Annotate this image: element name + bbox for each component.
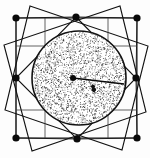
node-dot-edge-left-mid [12, 74, 19, 81]
node-dot-edge-top-mid [72, 13, 79, 20]
node-dot-corner-bottom-right [133, 134, 140, 141]
center-dot [70, 75, 76, 81]
node-dot-corner-bottom-left [12, 134, 19, 141]
figure-container: Stippled circle inscribed in square latt… [0, 0, 150, 158]
node-dot-corner-top-left [12, 14, 19, 21]
geometric-figure-svg [0, 0, 150, 158]
node-dot-edge-bottom-mid [73, 135, 80, 142]
node-dot-corner-top-right [133, 14, 140, 21]
node-dot-edge-right-mid [132, 74, 139, 81]
